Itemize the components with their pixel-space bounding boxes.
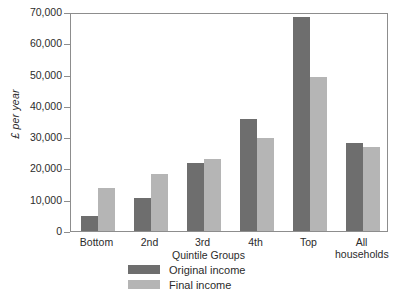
legend-label-original-income: Original income bbox=[169, 264, 245, 276]
bar-group bbox=[293, 14, 327, 231]
y-axis-title: £ per year bbox=[9, 69, 21, 159]
y-axis-tick-label: 50,000 bbox=[30, 70, 62, 81]
y-axis-tick-label: 20,000 bbox=[30, 163, 62, 174]
bar-group bbox=[240, 14, 274, 231]
plot-area bbox=[70, 13, 388, 232]
bars-layer bbox=[71, 14, 387, 231]
legend-label-final-income: Final income bbox=[169, 279, 231, 291]
y-axis-tick-label: 10,000 bbox=[30, 195, 62, 206]
bar-original-income bbox=[240, 119, 257, 231]
y-axis-tick-label: 30,000 bbox=[30, 132, 62, 143]
y-axis-tick-label: 40,000 bbox=[30, 101, 62, 112]
x-axis-tick-label: 3rd bbox=[176, 237, 229, 249]
x-axis-tick-label: 2nd bbox=[123, 237, 176, 249]
bar-chart: £ per year 010,00020,00030,00040,00050,0… bbox=[0, 0, 398, 299]
x-axis-tick-label: 4th bbox=[229, 237, 282, 249]
bar-original-income bbox=[293, 17, 310, 231]
y-axis-tick-label: 60,000 bbox=[30, 38, 62, 49]
bar-group bbox=[346, 14, 380, 231]
bar-original-income bbox=[134, 198, 151, 231]
x-axis-tick-label: Top bbox=[282, 237, 335, 249]
y-axis-tick bbox=[64, 232, 70, 233]
legend-swatch-original-income bbox=[128, 265, 160, 274]
bar-original-income bbox=[187, 163, 204, 231]
bar-group bbox=[187, 14, 221, 231]
bar-final-income bbox=[151, 174, 168, 231]
legend-item-original-income: Original income bbox=[128, 262, 245, 277]
bar-final-income bbox=[310, 77, 327, 231]
bar-final-income bbox=[204, 159, 221, 231]
x-axis-tick-label: Bottom bbox=[70, 237, 123, 249]
y-axis-tick-label: 0 bbox=[56, 226, 62, 237]
bar-original-income bbox=[81, 216, 98, 231]
x-axis-tick-label: Allhouseholds bbox=[335, 237, 388, 260]
legend: Original income Final income bbox=[128, 262, 245, 292]
y-axis-tick-label: 70,000 bbox=[30, 7, 62, 18]
bar-group bbox=[134, 14, 168, 231]
bar-final-income bbox=[98, 188, 115, 231]
bar-group bbox=[81, 14, 115, 231]
x-axis-title: Quintile Groups bbox=[172, 249, 245, 261]
bar-final-income bbox=[257, 138, 274, 231]
bar-final-income bbox=[363, 147, 380, 231]
legend-swatch-final-income bbox=[128, 280, 160, 289]
bar-original-income bbox=[346, 143, 363, 231]
legend-item-final-income: Final income bbox=[128, 277, 245, 292]
